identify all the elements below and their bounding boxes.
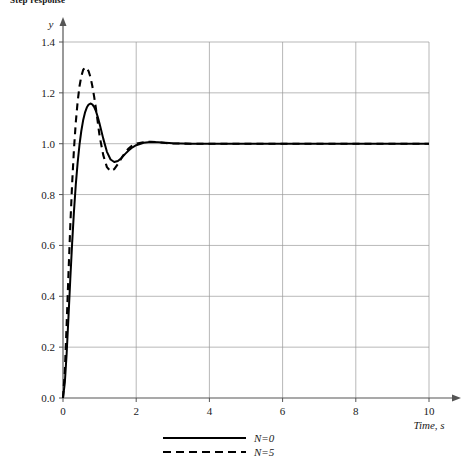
axis-name-labels: yTime, s <box>48 18 445 431</box>
curve-n5 <box>63 67 429 398</box>
data-curves <box>63 67 429 398</box>
chart-legend: N=0N=5 <box>163 432 275 458</box>
legend-label: N=0 <box>253 432 275 444</box>
y-axis-name: y <box>48 18 54 30</box>
y-tick-label: 1.4 <box>41 36 55 48</box>
x-tick-label: 6 <box>280 405 286 417</box>
x-tick-label: 2 <box>133 405 139 417</box>
horizontal-gridlines <box>63 42 429 347</box>
y-tick-label: 0.8 <box>41 189 55 201</box>
x-tick-label: 8 <box>353 405 359 417</box>
x-tick-label: 0 <box>60 405 66 417</box>
x-tick-label: 4 <box>207 405 213 417</box>
y-tick-label: 0.0 <box>41 392 55 404</box>
legend-label: N=5 <box>253 446 275 458</box>
y-tick-label: 0.6 <box>41 239 55 251</box>
y-tick-label: 0.2 <box>41 341 55 353</box>
axis-lines <box>60 17 462 402</box>
x-tick-label: 10 <box>424 405 436 417</box>
y-tick-label: 1.2 <box>41 87 55 99</box>
x-axis-tick-labels: 0246810 <box>60 405 435 417</box>
axis-ticks <box>59 42 429 402</box>
y-tick-label: 0.4 <box>41 290 55 302</box>
vertical-gridlines <box>136 42 429 398</box>
x-axis-name: Time, s <box>413 419 444 431</box>
chart-figure: Step response 0.00.20.40.60.81.01.21.4 0… <box>0 0 468 461</box>
y-axis-tick-labels: 0.00.20.40.60.81.01.21.4 <box>41 36 55 404</box>
step-response-plot: 0.00.20.40.60.81.01.21.4 0246810 yTime, … <box>0 0 468 461</box>
y-tick-label: 1.0 <box>41 138 55 150</box>
curve-n0 <box>63 104 429 398</box>
